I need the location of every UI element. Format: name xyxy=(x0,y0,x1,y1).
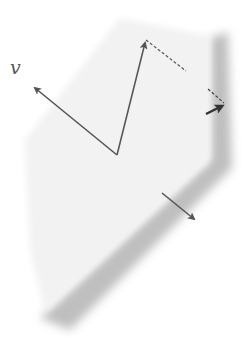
vector-v-label: v xyxy=(10,56,21,78)
plane-diagram xyxy=(0,0,248,341)
